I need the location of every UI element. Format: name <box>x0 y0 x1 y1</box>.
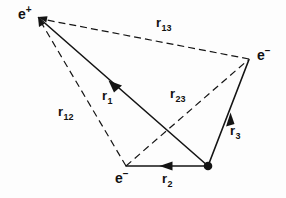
vector-label-r12: r12 <box>58 105 74 118</box>
nucleus-dot-marker <box>204 162 213 171</box>
vector-name-r2: r <box>162 171 167 186</box>
vector-label-r13: r13 <box>156 16 172 29</box>
vector-subscript-r1: 1 <box>108 96 113 106</box>
vector-subscript-r3: 3 <box>236 131 241 141</box>
line-r3 <box>208 60 249 167</box>
particle-charge-electron-right: − <box>265 45 271 56</box>
vector-name-r1: r <box>102 88 107 103</box>
vector-subscript-r23: 23 <box>176 94 186 104</box>
line-r12 <box>38 17 126 166</box>
vector-label-r2: r2 <box>162 172 173 185</box>
particle-symbol-positron: e <box>18 6 26 22</box>
particle-label-electron-bottom: e− <box>115 171 129 185</box>
line-r23 <box>126 60 248 166</box>
vector-name-r12: r <box>58 104 63 119</box>
diagram-canvas <box>0 0 286 198</box>
vector-label-r1: r1 <box>102 89 113 102</box>
vector-name-r3: r <box>230 123 235 138</box>
physics-diagram-figure: e+ e− e− r1 r2 r3 r12 r13 r23 <box>0 0 286 198</box>
particle-label-electron-right: e− <box>257 48 271 62</box>
vector-name-r13: r <box>156 15 161 30</box>
vector-subscript-r2: 2 <box>168 179 173 189</box>
particle-symbol-electron-bottom: e <box>115 170 123 186</box>
particle-charge-positron: + <box>26 4 32 15</box>
line-r2 <box>126 162 208 171</box>
particle-charge-electron-bottom: − <box>123 168 129 179</box>
arrowhead-r2 <box>160 162 173 171</box>
vector-subscript-r12: 12 <box>64 112 74 122</box>
vector-name-r23: r <box>170 86 175 101</box>
vector-label-r3: r3 <box>230 124 241 137</box>
vector-label-r23: r23 <box>170 87 186 100</box>
particle-label-positron: e+ <box>18 7 32 21</box>
particle-symbol-electron-right: e <box>257 47 265 63</box>
vector-subscript-r13: 13 <box>162 23 172 33</box>
line-r13 <box>38 16 249 59</box>
